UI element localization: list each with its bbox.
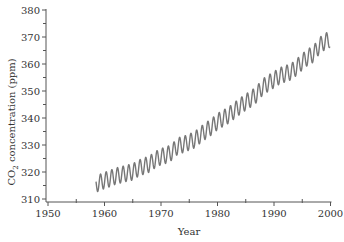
y-axis-title-prefix: CO: [6, 170, 17, 186]
y-axis-title: CO2 concentration (ppm): [6, 58, 20, 185]
x-axis-title: Year: [177, 226, 201, 237]
y-tick-label: 370: [21, 32, 40, 43]
y-tick-label: 360: [21, 59, 40, 70]
y-tick-label: 340: [21, 113, 40, 124]
x-tick-label: 1970: [148, 208, 173, 219]
x-tick-label: 1990: [261, 208, 286, 219]
x-tick-label: 2000: [318, 208, 343, 219]
y-tick-label: 310: [21, 194, 40, 205]
y-tick-label: 380: [21, 5, 40, 16]
y-tick-label: 350: [21, 86, 40, 97]
x-tick-label: 1960: [92, 208, 117, 219]
y-axis: 310320330340350360370380: [21, 5, 46, 205]
co2-line-chart: 310320330340350360370380 195019601970198…: [0, 0, 344, 242]
y-tick-label: 330: [21, 140, 40, 151]
x-tick-label: 1980: [205, 208, 230, 219]
y-axis-title-suffix: concentration (ppm): [6, 58, 17, 165]
co2-series-line: [96, 33, 330, 192]
x-axis: 195019601970198019902000: [35, 199, 343, 219]
y-tick-label: 320: [21, 167, 40, 178]
x-tick-label: 1950: [35, 208, 60, 219]
